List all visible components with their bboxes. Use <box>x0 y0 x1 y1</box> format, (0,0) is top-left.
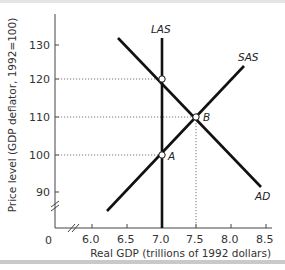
ad-label: AD <box>254 190 270 202</box>
x-ticks <box>92 224 266 228</box>
y-tick-90: 90 <box>36 186 50 199</box>
x-tick-7.5: 7.5 <box>186 233 204 246</box>
point-a-label: A <box>167 150 175 162</box>
point-las-ad <box>159 76 165 82</box>
point-b-label: B <box>203 111 210 123</box>
x-tick-6.0: 6.0 <box>82 233 100 246</box>
as-ad-chart: 130 120 110 100 90 6.0 6.5 7.0 7.5 8.0 8… <box>0 0 285 270</box>
y-tick-120: 120 <box>29 73 50 86</box>
las-label: LAS <box>151 23 171 35</box>
y-tick-130: 130 <box>29 39 50 52</box>
y-ticks <box>55 45 59 192</box>
bottom-rule <box>0 260 285 264</box>
x-axis-title: Real GDP (trillions of 1992 dollars) <box>90 247 271 259</box>
x-tick-7.0: 7.0 <box>152 233 170 246</box>
y-axis-title: Price level (GDP deflator, 1992=100) <box>6 18 18 213</box>
origin-label: 0 <box>45 234 52 247</box>
y-tick-100: 100 <box>29 149 50 162</box>
point-a <box>159 152 165 158</box>
y-tick-110: 110 <box>29 111 50 124</box>
x-tick-8.5: 8.5 <box>256 233 274 246</box>
sas-label: SAS <box>238 51 259 63</box>
point-b <box>193 114 199 120</box>
x-tick-6.5: 6.5 <box>117 233 135 246</box>
x-tick-8.0: 8.0 <box>221 233 239 246</box>
sas-curve <box>107 66 244 211</box>
